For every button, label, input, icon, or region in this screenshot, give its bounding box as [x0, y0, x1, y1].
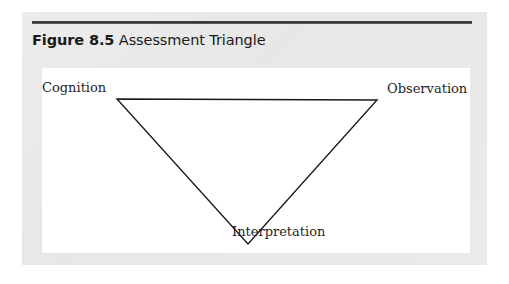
figure-number-label: Figure 8.5 — [32, 32, 114, 48]
figure-caption: Figure 8.5 Assessment Triangle — [32, 29, 477, 51]
figure-panel: Figure 8.5 Assessment Triangle Cognition… — [22, 12, 487, 265]
figure-root: Figure 8.5 Assessment Triangle Cognition… — [0, 0, 509, 284]
figure-canvas: Cognition Observation Interpretation — [42, 68, 470, 253]
vertex-label-observation: Observation — [387, 81, 467, 96]
vertex-label-interpretation: Interpretation — [232, 224, 325, 239]
vertex-label-cognition: Cognition — [42, 80, 106, 95]
triangle-outline — [117, 99, 377, 244]
figure-title-label: Assessment Triangle — [119, 32, 266, 48]
caption-rule-divider — [32, 21, 472, 24]
